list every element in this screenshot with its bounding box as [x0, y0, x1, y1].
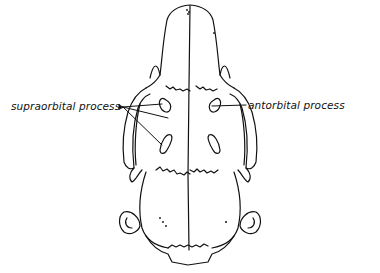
label-supraorbital-process: supraorbital process — [11, 100, 120, 112]
label-antorbital-process: antorbital process — [248, 99, 345, 111]
frontoparietal-suture — [156, 167, 218, 175]
supraorbital-leader-lines — [119, 104, 168, 145]
occipital-region — [146, 236, 234, 265]
right-bulla — [240, 212, 261, 234]
skull-drawing — [0, 0, 380, 273]
right-supraorbital-process — [208, 135, 220, 154]
left-supraorbital-process — [160, 135, 172, 154]
right-antorbital-process — [209, 98, 220, 112]
left-antorbital-process — [159, 98, 170, 112]
left-bulla — [120, 212, 141, 234]
braincase-outline — [140, 172, 240, 248]
midline-suture — [188, 6, 190, 250]
